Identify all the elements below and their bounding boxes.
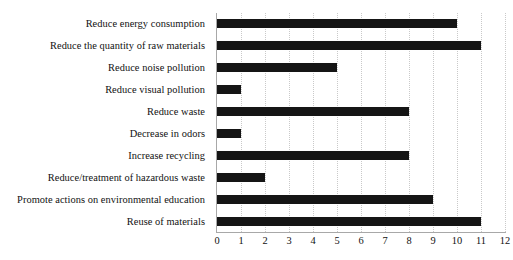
bar <box>217 173 265 182</box>
category-label: Reuse of materials <box>0 216 205 227</box>
x-axis-line <box>216 232 506 233</box>
bar <box>217 217 481 226</box>
category-axis-labels: Reduce energy consumptionReduce the quan… <box>0 13 209 232</box>
bar <box>217 85 241 94</box>
x-axis-tick-labels: 0123456789101112 <box>217 235 507 251</box>
category-label: Reduce energy consumption <box>0 18 205 29</box>
bar <box>217 129 241 138</box>
bar <box>217 19 457 28</box>
x-tick-label: 7 <box>373 235 397 247</box>
gridline <box>481 13 482 232</box>
category-label: Increase recycling <box>0 150 205 161</box>
category-label: Reduce waste <box>0 106 205 117</box>
x-tick-label: 11 <box>469 235 493 247</box>
x-tick-label: 3 <box>277 235 301 247</box>
category-label: Promote actions on environmental educati… <box>0 194 205 205</box>
x-tick-label: 8 <box>397 235 421 247</box>
bar <box>217 195 433 204</box>
category-label: Decrease in odors <box>0 128 205 139</box>
bar <box>217 151 409 160</box>
x-tick-label: 10 <box>445 235 469 247</box>
x-tick-label: 5 <box>325 235 349 247</box>
bar <box>217 63 337 72</box>
x-tick-label: 12 <box>493 235 513 247</box>
x-tick-label: 9 <box>421 235 445 247</box>
x-tick-label: 1 <box>229 235 253 247</box>
category-label: Reduce/treatment of hazardous waste <box>0 172 205 183</box>
plot-area <box>217 13 505 232</box>
x-tick-label: 4 <box>301 235 325 247</box>
horizontal-bar-chart: Reduce energy consumptionReduce the quan… <box>0 0 513 260</box>
category-label: Reduce noise pollution <box>0 62 205 73</box>
bar <box>217 41 481 50</box>
x-tick-label: 0 <box>205 235 229 247</box>
x-tick-label: 2 <box>253 235 277 247</box>
bar <box>217 107 409 116</box>
category-label: Reduce the quantity of raw materials <box>0 40 205 51</box>
gridline <box>505 13 506 232</box>
category-label: Reduce visual pollution <box>0 84 205 95</box>
x-tick-label: 6 <box>349 235 373 247</box>
